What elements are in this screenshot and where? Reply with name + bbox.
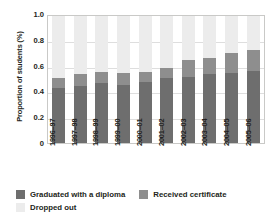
- bar-segment-certificate: [182, 60, 195, 77]
- chart-legend: Graduated with a diploma Received certif…: [16, 190, 266, 216]
- y-axis-tick-label: 1.0: [22, 11, 44, 19]
- y-axis-tick-label: 0: [22, 140, 44, 148]
- x-axis-tick-label: 2002–03: [179, 119, 188, 146]
- legend-swatch-icon-graduated: [16, 190, 25, 199]
- bar-segment-dropped-out: [225, 16, 238, 53]
- bar-segment-dropped-out: [247, 16, 260, 50]
- legend-item-certificate[interactable]: Received certificate: [139, 190, 226, 199]
- x-axis-tick: 1998–99: [95, 146, 108, 188]
- legend-label-dropped-out: Dropped out: [30, 203, 76, 212]
- bar-segment-dropped-out: [74, 16, 87, 74]
- x-axis-tick-label: 1998–99: [92, 119, 101, 146]
- x-axis-tick: 2003–04: [204, 146, 217, 188]
- x-axis-tick: 1999–00: [117, 146, 130, 188]
- y-axis-tick-label: 0.4: [22, 88, 44, 96]
- x-axis-tick: 1996–97: [51, 146, 64, 188]
- x-axis-tick: 2002–03: [182, 146, 195, 188]
- x-axis-tick-label: 2003–04: [201, 119, 210, 146]
- bar-segment-dropped-out: [139, 16, 152, 72]
- y-axis-title: Proportion of students (%): [15, 12, 24, 142]
- bar-segment-dropped-out: [95, 16, 108, 72]
- legend-swatch-icon-dropped-out: [16, 203, 25, 212]
- y-axis-tick-label: 0.6: [22, 63, 44, 71]
- bar-segment-dropped-out: [52, 16, 65, 78]
- chart-figure: Proportion of students (%) 1.00.80.60.40…: [0, 0, 275, 224]
- bar-segment-certificate: [247, 50, 260, 70]
- x-axis-tick: 2004–05: [226, 146, 239, 188]
- bar-segment-certificate: [160, 68, 173, 78]
- legend-row-2: Dropped out: [16, 203, 266, 212]
- bar-segment-dropped-out: [182, 16, 195, 60]
- bar-segment-certificate: [225, 53, 238, 73]
- x-axis-tick-label: 2001–02: [157, 119, 166, 146]
- bar-segment-certificate: [203, 58, 216, 75]
- x-axis-tick: 2005–06: [248, 146, 261, 188]
- bar-segment-certificate: [52, 78, 65, 88]
- bar-group: [48, 16, 264, 143]
- legend-row-1: Graduated with a diploma Received certif…: [16, 190, 266, 199]
- bar-segment-dropped-out: [160, 16, 173, 68]
- x-axis-tick-label: 2000–01: [135, 119, 144, 146]
- x-axis-tick-label: 2005–06: [244, 119, 253, 146]
- bar-segment-certificate: [74, 74, 87, 85]
- y-axis-tick-label: 0.2: [22, 114, 44, 122]
- x-axis-tick: 1997–98: [73, 146, 86, 188]
- legend-swatch-icon-certificate: [139, 190, 148, 199]
- bar-segment-dropped-out: [117, 16, 130, 73]
- x-axis-tick-label: 1997–98: [70, 119, 79, 146]
- x-axis-tick: 2000–01: [139, 146, 152, 188]
- legend-item-graduated[interactable]: Graduated with a diploma: [16, 190, 125, 199]
- x-axis-tick-label: 1996–97: [48, 119, 57, 146]
- bar-segment-certificate: [117, 73, 130, 84]
- bar-segment-certificate: [95, 72, 108, 83]
- bar-segment-dropped-out: [203, 16, 216, 58]
- legend-label-certificate: Received certificate: [153, 190, 226, 199]
- x-axis-tick: 2001–02: [160, 146, 173, 188]
- plot-area: [47, 15, 265, 144]
- legend-label-graduated: Graduated with a diploma: [30, 190, 125, 199]
- y-axis-tick-label: 0.8: [22, 37, 44, 45]
- x-axis-tick-label: 2004–05: [223, 119, 232, 146]
- legend-item-dropped-out[interactable]: Dropped out: [16, 203, 76, 212]
- x-axis-tick-labels: 1996–971997–981998–991999–002000–012001–…: [47, 146, 265, 188]
- x-axis-tick-label: 1999–00: [114, 119, 123, 146]
- bar-segment-certificate: [139, 72, 152, 82]
